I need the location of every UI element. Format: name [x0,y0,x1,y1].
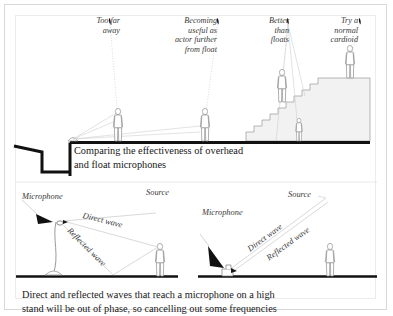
microphone-pointer-right [208,246,224,268]
label-source-left: Source [146,188,169,198]
bottom-left-diagram [16,200,178,277]
figure-page: Too far away Becoming useful as actor fu… [0,0,393,316]
actor-figure [113,108,122,141]
microphone-pointer-left [36,214,53,224]
annotation-try-a-normal-cardioid: Try a normal cardioid [296,16,358,45]
label-source-right: Source [288,190,311,200]
staircase [246,78,370,141]
top-panel-caption: Comparing the effectiveness of overhead … [74,144,324,171]
actor-figure [200,108,209,141]
reflected-wave-right [231,202,328,273]
caption-leader-line [14,146,70,172]
actor-figure [277,69,286,102]
label-microphone-left: Microphone [22,192,63,202]
annotation-too-far-away: Too far away [62,16,120,35]
float-microphone [68,138,78,142]
annotation-becoming-useful: Becoming useful as actor further from fl… [145,16,217,55]
annotation-better-than-floats: Better than floats [243,16,289,45]
bottom-panel-caption: Direct and reflected waves that reach a … [22,288,372,315]
label-microphone-right: Microphone [202,208,243,218]
float-mic-rays [73,112,200,139]
